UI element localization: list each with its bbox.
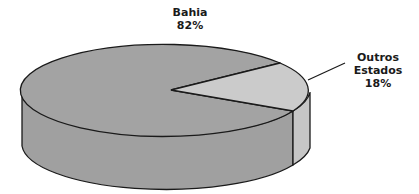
outros-label: Outros Estados 18% (340, 51, 416, 90)
outros-name-line1: Outros (340, 51, 416, 64)
outros-name-line2: Estados (340, 64, 416, 77)
bahia-label: Bahia 82% (150, 6, 230, 32)
bahia-value: 82% (150, 19, 230, 32)
bahia-name: Bahia (150, 6, 230, 19)
outros-value: 18% (340, 77, 416, 90)
